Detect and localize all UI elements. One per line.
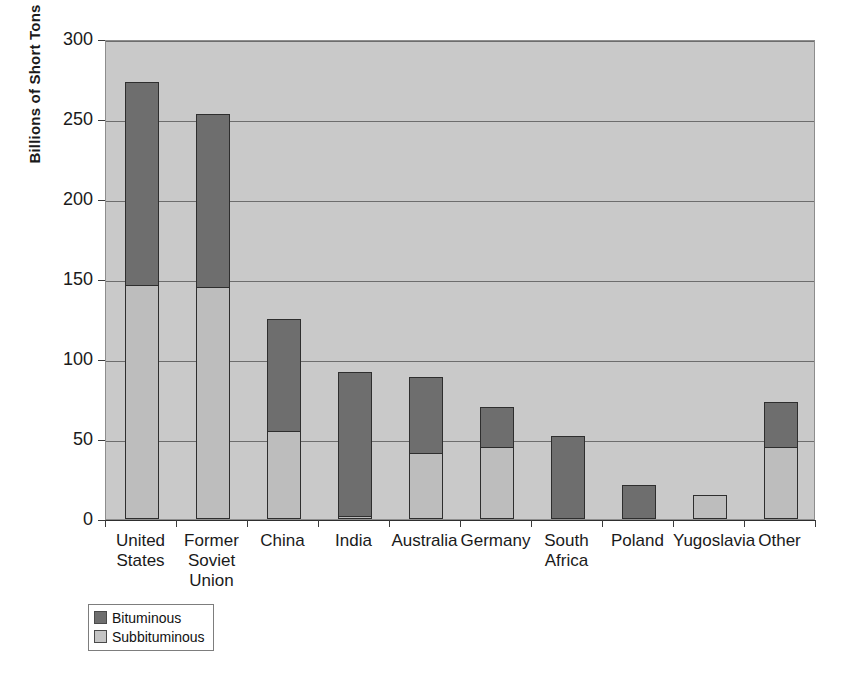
bar-segment-subbituminous[interactable] <box>267 431 301 519</box>
x-tick-mark <box>673 520 674 527</box>
legend-item-subbituminous[interactable]: Subbituminous <box>94 627 205 646</box>
x-tick-mark <box>815 520 816 527</box>
legend-swatch-icon <box>94 630 107 643</box>
y-tick-label: 100 <box>49 349 93 370</box>
x-tick-label-poland: Poland <box>602 531 673 551</box>
bar-segment-bituminous[interactable] <box>622 485 656 519</box>
y-tick-label: 50 <box>49 429 93 450</box>
bar-germany[interactable] <box>480 407 514 519</box>
y-tick-mark <box>98 440 105 441</box>
y-tick-mark <box>98 280 105 281</box>
x-tick-mark <box>176 520 177 527</box>
legend-label: Subbituminous <box>112 629 205 645</box>
x-tick-mark <box>318 520 319 527</box>
bar-segment-bituminous[interactable] <box>764 402 798 447</box>
y-tick-label: 200 <box>49 189 93 210</box>
legend-label: Bituminous <box>112 610 181 626</box>
x-tick-mark <box>602 520 603 527</box>
x-tick-label-other: Other <box>744 531 815 551</box>
x-tick-mark <box>744 520 745 527</box>
bar-segment-subbituminous[interactable] <box>125 285 159 519</box>
bar-segment-bituminous[interactable] <box>551 436 585 519</box>
y-tick-label: 300 <box>49 29 93 50</box>
bar-segment-bituminous[interactable] <box>409 377 443 454</box>
bar-other[interactable] <box>764 402 798 519</box>
bar-poland[interactable] <box>622 485 656 519</box>
bar-south-africa[interactable] <box>551 436 585 519</box>
x-tick-label-china: China <box>247 531 318 551</box>
plot-area <box>105 40 815 520</box>
x-tick-label-south-africa: South Africa <box>531 531 602 571</box>
x-tick-mark <box>389 520 390 527</box>
bar-india[interactable] <box>338 372 372 519</box>
gridline <box>106 41 814 42</box>
y-tick-label: 150 <box>49 269 93 290</box>
y-tick-label: 250 <box>49 109 93 130</box>
bar-segment-subbituminous[interactable] <box>338 516 372 519</box>
bar-segment-subbituminous[interactable] <box>196 287 230 519</box>
bar-yugoslavia[interactable] <box>693 495 727 519</box>
y-tick-mark <box>98 200 105 201</box>
legend: BituminousSubbituminous <box>88 604 214 651</box>
bar-segment-subbituminous[interactable] <box>764 447 798 519</box>
legend-swatch-icon <box>94 611 107 624</box>
bar-china[interactable] <box>267 319 301 519</box>
bar-australia[interactable] <box>409 377 443 519</box>
x-tick-label-yugoslavia: Yugoslavia <box>673 531 744 551</box>
coal-reserves-stacked-bar-chart: Billions of Short Tons BituminousSubbitu… <box>0 0 848 681</box>
bar-segment-bituminous[interactable] <box>338 372 372 516</box>
x-tick-mark <box>531 520 532 527</box>
x-tick-label-germany: Germany <box>460 531 531 551</box>
x-tick-label-united-states: United States <box>105 531 176 571</box>
x-tick-mark <box>247 520 248 527</box>
bar-segment-subbituminous[interactable] <box>693 495 727 519</box>
x-tick-label-former-soviet-union: Former Soviet Union <box>176 531 247 591</box>
bar-former-soviet-union[interactable] <box>196 114 230 519</box>
y-tick-mark <box>98 520 105 521</box>
bar-segment-bituminous[interactable] <box>480 407 514 447</box>
legend-item-bituminous[interactable]: Bituminous <box>94 608 205 627</box>
y-tick-label: 0 <box>49 509 93 530</box>
bar-united-states[interactable] <box>125 82 159 519</box>
bar-segment-bituminous[interactable] <box>267 319 301 431</box>
x-tick-mark <box>460 520 461 527</box>
y-tick-mark <box>98 360 105 361</box>
bar-segment-subbituminous[interactable] <box>480 447 514 519</box>
x-tick-label-australia: Australia <box>389 531 460 551</box>
y-axis <box>0 0 105 681</box>
bar-segment-bituminous[interactable] <box>125 82 159 285</box>
x-tick-label-india: India <box>318 531 389 551</box>
x-tick-mark <box>105 520 106 527</box>
bar-segment-bituminous[interactable] <box>196 114 230 287</box>
y-tick-mark <box>98 40 105 41</box>
bar-segment-subbituminous[interactable] <box>409 453 443 519</box>
y-tick-mark <box>98 120 105 121</box>
